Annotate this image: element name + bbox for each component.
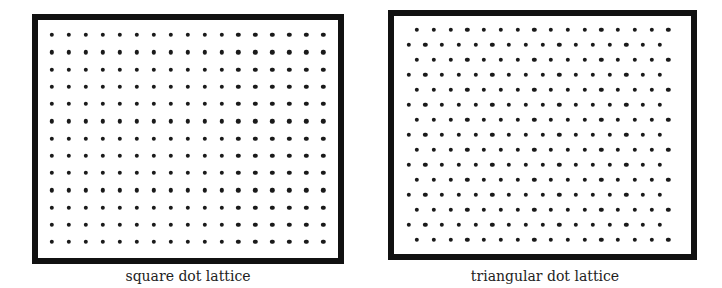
square-lattice-caption: square dot lattice bbox=[88, 268, 288, 284]
triangular-lattice-caption: triangular dot lattice bbox=[445, 268, 645, 284]
